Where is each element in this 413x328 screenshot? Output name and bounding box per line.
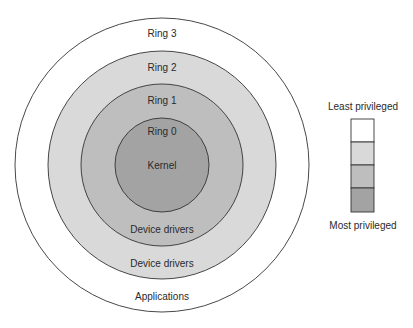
ring-1-label: Ring 1 [148, 95, 177, 106]
legend-bottom-label: Most privileged [329, 220, 396, 231]
legend-swatch-ring3 [351, 119, 374, 142]
ring-3-label: Ring 3 [148, 28, 177, 39]
legend-swatch-ring0 [351, 188, 374, 212]
kernel-label: Kernel [148, 160, 177, 171]
legend-swatch-ring2 [351, 142, 374, 165]
legend-swatch-ring1 [351, 165, 374, 188]
privilege-legend: Least privileged Most privileged [328, 101, 398, 231]
ring-2-label: Ring 2 [148, 62, 177, 73]
ring-2-content: Device drivers [130, 258, 193, 269]
ring-diagram: Ring 3 Ring 2 Ring 1 Ring 0 Kernel Devic… [0, 0, 413, 328]
legend-top-label: Least privileged [328, 101, 398, 112]
ring-1-content: Device drivers [130, 224, 193, 235]
ring-3-content: Applications [135, 291, 189, 302]
ring-0-label: Ring 0 [148, 126, 177, 137]
